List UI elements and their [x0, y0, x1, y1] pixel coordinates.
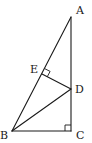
segment-bd [12, 89, 71, 131]
segment-de [42, 74, 71, 89]
label-point-d: D [75, 83, 84, 96]
label-point-e: E [30, 63, 38, 76]
label-point-c: C [76, 129, 84, 142]
label-point-b: B [0, 129, 8, 142]
right-angle-mark-c [65, 125, 71, 131]
label-point-a: A [75, 4, 85, 17]
geometry-diagram: A B C D E [0, 0, 92, 143]
